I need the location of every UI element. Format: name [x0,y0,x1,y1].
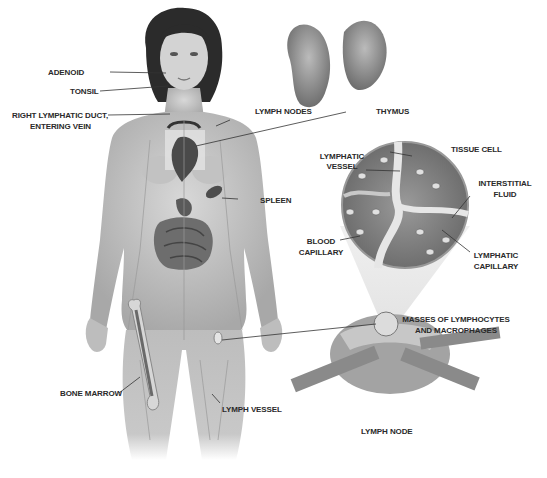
label-masses-line2: AND MACROPHAGES [396,325,516,336]
thymus-illustration [287,21,386,108]
label-tissue-cell: TISSUE CELL [451,144,502,155]
label-interstitial-fluid-line2: FLUID [470,189,540,200]
label-lymphatic-capillary-line2: CAPILLARY [466,261,526,272]
label-blood-capillary-line1: BLOOD [296,236,346,247]
label-spleen: SPLEEN [260,195,291,206]
label-blood-capillary-line2: CAPILLARY [296,247,346,258]
label-adenoid: ADENOID [48,67,84,78]
label-lymphatic-vessel-line2: VESSEL [312,161,372,172]
label-lymph-nodes: LYMPH NODES [255,106,312,117]
label-lymphatic-capillary-line1: LYMPHATIC [466,250,526,261]
label-right-lymphatic-duct-line1: RIGHT LYMPHATIC DUCT, [12,110,108,121]
label-thymus: THYMUS [376,106,409,117]
label-masses-line1: MASSES OF LYMPHOCYTES [396,314,516,325]
label-bone-marrow: BONE MARROW [60,388,122,399]
label-interstitial-fluid-line1: INTERSTITIAL [470,178,540,189]
label-lymph-node: LYMPH NODE [361,426,413,437]
label-lymph-vessel: LYMPH VESSEL [222,404,282,415]
label-right-lymphatic-duct-line2: ENTERING VEIN [30,121,91,132]
label-tonsil: TONSIL [70,86,99,97]
